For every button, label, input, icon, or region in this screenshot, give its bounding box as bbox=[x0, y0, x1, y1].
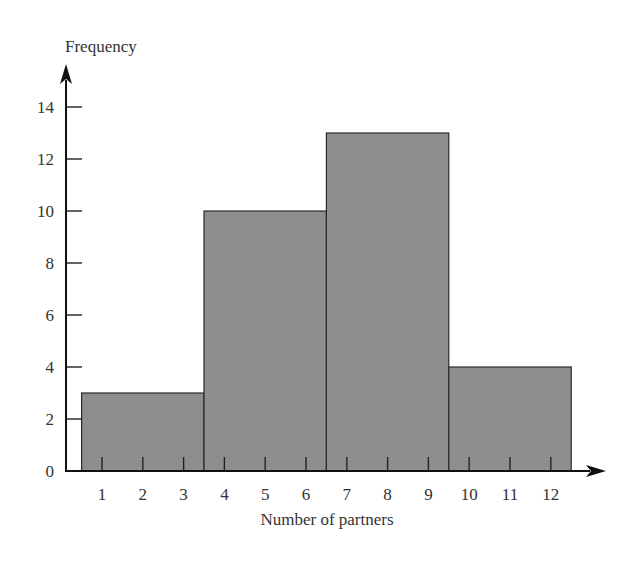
x-tick-label: 7 bbox=[343, 485, 352, 504]
bars-group bbox=[82, 133, 572, 471]
x-tick-label: 3 bbox=[179, 485, 188, 504]
histogram-bar bbox=[326, 133, 448, 471]
y-axis-title: Frequency bbox=[65, 37, 137, 56]
x-tick-label: 2 bbox=[139, 485, 148, 504]
y-tick-label: 6 bbox=[46, 306, 55, 325]
y-tick-label: 12 bbox=[37, 150, 54, 169]
y-tick-label: 8 bbox=[46, 254, 55, 273]
histogram-chart: Frequency 123456789101112 02468101214 Nu… bbox=[0, 0, 628, 562]
x-axis-title: Number of partners bbox=[260, 510, 393, 529]
x-tick-label: 11 bbox=[502, 485, 518, 504]
y-tick-label: 2 bbox=[46, 410, 55, 429]
y-ticks bbox=[66, 107, 82, 419]
y-tick-labels: 02468101214 bbox=[37, 98, 55, 481]
y-tick-label: 0 bbox=[46, 462, 55, 481]
histogram-bar bbox=[449, 367, 571, 471]
x-tick-label: 5 bbox=[261, 485, 270, 504]
y-tick-label: 14 bbox=[37, 98, 55, 117]
histogram-bar bbox=[204, 211, 326, 471]
x-tick-label: 9 bbox=[424, 485, 433, 504]
x-tick-label: 12 bbox=[542, 485, 559, 504]
x-tick-label: 10 bbox=[461, 485, 478, 504]
x-tick-label: 1 bbox=[98, 485, 107, 504]
x-tick-labels: 123456789101112 bbox=[98, 485, 560, 504]
x-tick-label: 4 bbox=[220, 485, 229, 504]
x-tick-label: 8 bbox=[383, 485, 392, 504]
y-tick-label: 10 bbox=[37, 202, 54, 221]
x-tick-label: 6 bbox=[302, 485, 311, 504]
y-tick-label: 4 bbox=[46, 358, 55, 377]
